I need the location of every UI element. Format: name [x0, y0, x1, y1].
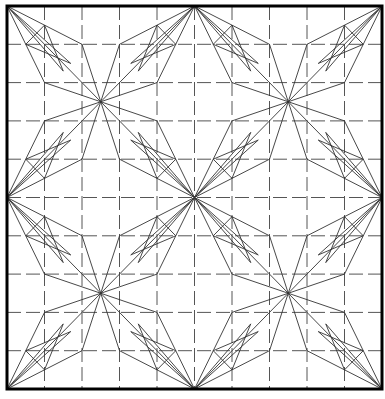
pattern-line	[138, 6, 194, 71]
pattern-line	[213, 236, 258, 255]
pattern-line	[318, 44, 363, 63]
pattern-line	[7, 6, 71, 63]
pattern-line	[270, 44, 289, 101]
pattern-line	[326, 132, 382, 197]
pattern-line	[232, 274, 288, 293]
pattern-line	[318, 236, 363, 255]
pattern-line	[232, 293, 288, 312]
pattern-line	[26, 332, 71, 351]
pattern-line	[138, 132, 157, 178]
pattern-line	[213, 140, 258, 159]
pattern-line	[101, 102, 157, 121]
pattern-line	[232, 324, 251, 370]
pattern-line	[101, 102, 120, 159]
pattern-line	[138, 25, 157, 71]
pattern-line	[232, 83, 288, 102]
pattern-line	[138, 217, 157, 263]
pattern-line	[288, 236, 307, 293]
pattern-line	[318, 332, 382, 389]
pattern-line	[131, 236, 176, 255]
pattern-line	[326, 324, 382, 389]
pattern-line	[326, 198, 382, 263]
pattern-line	[26, 44, 71, 63]
pattern-line	[232, 132, 251, 178]
pattern-line	[101, 44, 120, 101]
pattern-line	[82, 236, 101, 293]
pattern-line	[326, 6, 382, 71]
pattern-line	[213, 44, 258, 63]
pattern-line	[7, 6, 63, 71]
pattern-line	[270, 293, 289, 350]
pattern-line	[213, 332, 258, 351]
pattern-line	[7, 198, 71, 255]
pattern-line	[131, 332, 176, 351]
pattern-line	[45, 324, 64, 370]
pattern-line	[288, 293, 307, 350]
pattern-line	[82, 293, 101, 350]
pattern-line	[45, 83, 101, 102]
pattern-line	[45, 132, 64, 178]
pattern-line	[138, 324, 194, 389]
pattern-line	[288, 44, 307, 101]
geometric-star-pattern	[0, 0, 385, 399]
pattern-line	[131, 140, 195, 197]
pattern-line	[232, 217, 251, 263]
pattern-line	[131, 140, 176, 159]
pattern-line	[318, 140, 382, 197]
pattern-line	[131, 198, 195, 255]
pattern-line	[138, 198, 194, 263]
pattern-line	[7, 140, 71, 197]
pattern-line	[195, 332, 259, 389]
pattern-line	[101, 293, 157, 312]
pattern-line	[131, 44, 176, 63]
pattern-line	[101, 83, 157, 102]
pattern-line	[7, 324, 63, 389]
pattern-line	[82, 44, 101, 101]
pattern-line	[26, 236, 71, 255]
pattern-line	[195, 324, 251, 389]
pattern-line	[270, 102, 289, 159]
pattern-line	[45, 102, 101, 121]
pattern-line	[101, 236, 120, 293]
pattern-line	[326, 324, 345, 370]
pattern-line	[288, 274, 344, 293]
pattern-line	[318, 198, 382, 255]
pattern-line	[131, 332, 195, 389]
pattern-line	[45, 217, 64, 263]
pattern-line	[82, 102, 101, 159]
pattern-line	[45, 274, 101, 293]
pattern-line	[318, 140, 363, 159]
pattern-line	[288, 102, 344, 121]
pattern-line	[131, 6, 195, 63]
pattern-line	[232, 102, 288, 121]
pattern-line	[7, 132, 63, 197]
pattern-line	[101, 274, 157, 293]
pattern-line	[195, 6, 251, 71]
pattern-line	[326, 132, 345, 178]
pattern-line	[7, 198, 63, 263]
pattern-line	[7, 332, 71, 389]
pattern-line	[288, 293, 344, 312]
pattern-line	[26, 140, 71, 159]
pattern-line	[195, 132, 251, 197]
pattern-line	[318, 6, 382, 63]
pattern-line	[195, 198, 259, 255]
pattern-line	[326, 25, 345, 71]
pattern-line	[45, 25, 64, 71]
pattern-line	[270, 236, 289, 293]
pattern-line	[45, 293, 101, 312]
pattern-line	[326, 217, 345, 263]
pattern-line	[195, 198, 251, 263]
pattern-line	[195, 6, 259, 63]
pattern-line	[288, 83, 344, 102]
pattern-line	[195, 140, 259, 197]
pattern-line	[138, 132, 194, 197]
pattern-line	[318, 332, 363, 351]
pattern-line	[101, 293, 120, 350]
pattern-line	[288, 102, 307, 159]
pattern-line	[138, 324, 157, 370]
pattern-line	[232, 25, 251, 71]
